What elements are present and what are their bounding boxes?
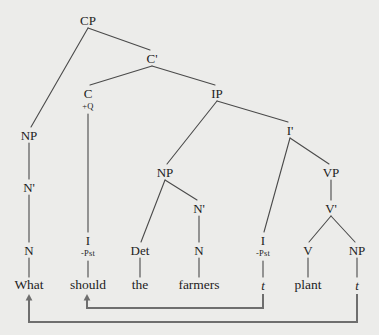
tree-node-vp: VP [323, 166, 340, 179]
tree-node-i-trace: I [261, 234, 265, 247]
tree-node-cp: CP [80, 14, 96, 27]
tree-node-det: Det [131, 244, 150, 257]
tree-branch-ip-to-np-subj [167, 101, 217, 164]
tree-terminal-w-farmers: farmers [178, 278, 219, 292]
tree-branch-np-subj-to-nbar-subj [165, 180, 197, 200]
movement-arrow-head-movement [87, 294, 263, 308]
tree-branch-cp-to-cbar [88, 28, 150, 50]
tree-branch-cbar-to-c [90, 66, 152, 85]
tree-terminal-w-trace-np: t [355, 279, 359, 292]
tree-terminal-w-what: What [14, 278, 43, 292]
tree-node-c: C [84, 87, 93, 100]
tree-node-cq: +Q [82, 102, 93, 111]
tree-branch-cp-to-np-wh [31, 28, 88, 127]
tree-node-v: V [303, 244, 312, 257]
tree-branch-vbar-to-v [309, 216, 331, 242]
tree-node-n-subj: N [194, 244, 203, 257]
tree-branch-ip-to-ibar [217, 101, 288, 122]
tree-node-i-aux-pst: -Pst [81, 249, 95, 258]
tree-node-vbar: V' [325, 202, 337, 215]
tree-node-cbar: C' [146, 52, 157, 65]
tree-node-nbar-subj: N' [193, 202, 205, 215]
movement-arrowhead-head-movement [84, 294, 91, 301]
syntax-tree-diagram: CPC'C+QIPNPI'N'NPVPN'V'NI-PstDetNI-PstVN… [0, 0, 379, 335]
tree-node-i-aux: I [86, 234, 90, 247]
tree-node-ibar: I' [287, 124, 294, 137]
tree-node-np-wh: NP [21, 129, 38, 142]
tree-branch-cbar-to-ip [152, 66, 215, 85]
tree-terminal-w-plant: plant [295, 278, 322, 292]
tree-node-n-wh: N [24, 244, 33, 257]
tree-node-nbar-wh: N' [23, 181, 35, 194]
movement-arrowhead-wh-movement [26, 294, 33, 301]
tree-branch-ibar-to-i-trace [264, 138, 290, 232]
tree-terminal-w-trace-i: t [261, 279, 265, 292]
tree-node-ip: IP [211, 87, 223, 100]
tree-node-np-subj: NP [157, 166, 174, 179]
tree-node-np-obj: NP [349, 244, 366, 257]
tree-branch-np-subj-to-det [141, 180, 165, 242]
tree-branch-vbar-to-np-obj [331, 216, 355, 242]
tree-terminal-w-should: should [70, 278, 106, 292]
tree-node-i-trace-pst: -Pst [256, 249, 270, 258]
tree-branch-ibar-to-vp [290, 138, 329, 164]
tree-terminal-w-the: the [132, 278, 149, 292]
